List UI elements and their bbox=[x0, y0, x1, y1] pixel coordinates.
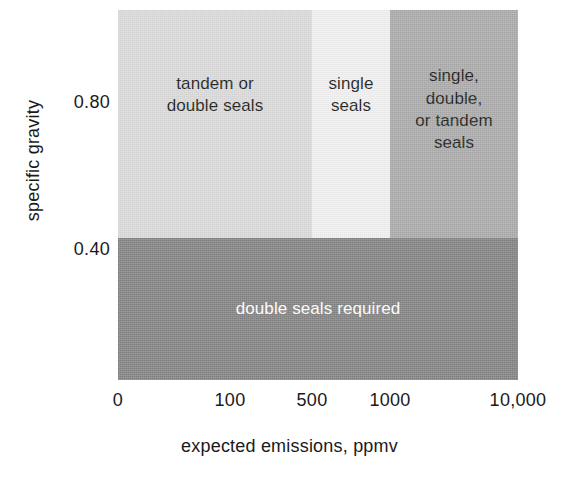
x-axis-title: expected emissions, ppmv bbox=[0, 436, 579, 457]
region-label-tandem-or-double-seals: tandem or double seals bbox=[167, 73, 264, 176]
plot-area: tandem or double seals single seals sing… bbox=[118, 10, 518, 380]
region-label-single-seals: single seals bbox=[328, 73, 373, 176]
x-tick-label-100: 100 bbox=[215, 390, 246, 411]
region-label-single-double-or-tandem-seals: single, double, or tandem seals bbox=[415, 65, 492, 183]
y-tick-label-0-40: 0.40 bbox=[40, 239, 110, 260]
region-single-double-or-tandem-seals: single, double, or tandem seals bbox=[390, 10, 518, 238]
region-tandem-or-double-seals: tandem or double seals bbox=[118, 10, 312, 238]
y-tick-label-0-80: 0.80 bbox=[40, 92, 110, 113]
x-tick-label-1000: 1000 bbox=[369, 390, 410, 411]
region-single-seals: single seals bbox=[312, 10, 390, 238]
region-label-double-seals-required: double seals required bbox=[236, 298, 401, 320]
x-tick-label-10000: 10,000 bbox=[490, 390, 547, 411]
y-axis-tick-labels: 0.80 0.40 bbox=[40, 10, 110, 380]
x-axis-tick-labels: 0 100 500 1000 10,000 bbox=[0, 390, 579, 420]
x-tick-label-500: 500 bbox=[297, 390, 328, 411]
seal-selection-chart: tandem or double seals single seals sing… bbox=[0, 0, 579, 482]
region-double-seals-required: double seals required bbox=[118, 238, 518, 380]
x-tick-label-0: 0 bbox=[113, 390, 123, 411]
